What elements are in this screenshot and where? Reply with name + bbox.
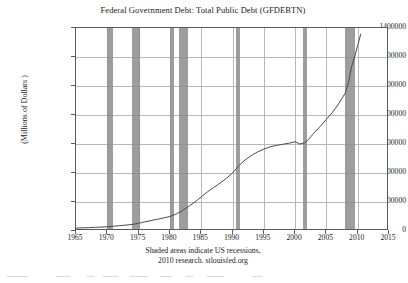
- x-tick-label: 2015: [368, 233, 408, 242]
- x-tick-mark: [169, 230, 170, 234]
- page-scan-artifacts: [0, 272, 406, 283]
- x-tick-mark: [388, 230, 389, 234]
- x-tick-mark: [232, 230, 233, 234]
- x-tick-mark: [138, 230, 139, 234]
- footnote-line-2: 2010 research. stlouisfed.org: [0, 256, 406, 266]
- x-tick-mark: [263, 230, 264, 234]
- x-tick-mark: [325, 230, 326, 234]
- plot-area: [75, 27, 388, 230]
- x-tick-mark: [200, 230, 201, 234]
- footnote-line-1: Shaded areas indicate US recessions,: [0, 246, 406, 256]
- x-tick-mark: [357, 230, 358, 234]
- data-series-line: [76, 28, 388, 230]
- y-axis-label: (Millions of Dollars ): [20, 45, 29, 175]
- chart-title: Federal Government Debt: Total Public De…: [0, 5, 406, 15]
- x-tick-mark: [294, 230, 295, 234]
- x-tick-mark: [106, 230, 107, 234]
- chart-footnote: Shaded areas indicate US recessions, 201…: [0, 246, 406, 266]
- x-tick-mark: [75, 230, 76, 234]
